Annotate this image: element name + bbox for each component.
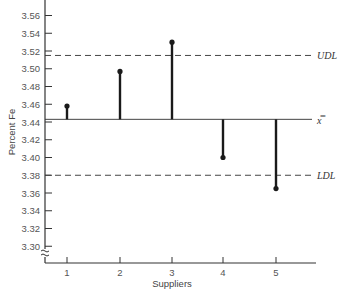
y-tick-label: 3.56 (22, 10, 41, 21)
data-stems (64, 40, 278, 192)
y-tick-label: 3.46 (22, 99, 41, 110)
udl-label: UDL (317, 50, 337, 61)
stem-supplier-2 (117, 69, 122, 120)
reference-lines: UDLx̿LDL (45, 50, 337, 181)
y-axis-ticks: 3.303.323.343.363.383.403.423.443.463.48… (22, 10, 53, 252)
y-tick-label: 3.50 (22, 63, 41, 74)
x-tick-label: 4 (220, 267, 225, 278)
y-tick-label: 3.40 (22, 152, 41, 163)
stem-supplier-5 (273, 119, 278, 191)
y-tick-label: 3.38 (22, 170, 41, 181)
data-point (64, 103, 69, 108)
x-tick-label: 3 (169, 267, 174, 278)
data-point (273, 186, 278, 191)
x-axis-title: Suppliers (152, 278, 192, 289)
y-tick-label: 3.30 (22, 241, 41, 252)
data-point (220, 155, 225, 160)
y-tick-label: 3.34 (22, 205, 41, 216)
x-axis-ticks: 12345 (64, 257, 278, 278)
stem-supplier-3 (169, 40, 174, 120)
svg-text:x̿: x̿ (316, 115, 325, 126)
stem-supplier-4 (220, 119, 225, 160)
y-tick-label: 3.44 (22, 117, 41, 128)
y-tick-label: 3.52 (22, 46, 41, 57)
y-tick-label: 3.32 (22, 223, 41, 234)
axis-break-icon (40, 249, 50, 257)
grand-mean-label: x̿ (316, 115, 325, 126)
ldl-label: LDL (316, 170, 336, 181)
data-point (169, 40, 174, 45)
stem-supplier-1 (64, 103, 69, 119)
y-axis-title: Percent Fe (6, 109, 17, 155)
y-tick-label: 3.36 (22, 188, 41, 199)
x-tick-label: 5 (273, 267, 278, 278)
y-tick-label: 3.48 (22, 81, 41, 92)
x-tick-label: 1 (64, 267, 69, 278)
y-tick-label: 3.42 (22, 134, 41, 145)
y-tick-label: 3.54 (22, 28, 41, 39)
data-point (117, 69, 122, 74)
stem-chart: 3.303.323.343.363.383.403.423.443.463.48… (0, 0, 340, 296)
x-tick-label: 2 (117, 267, 122, 278)
